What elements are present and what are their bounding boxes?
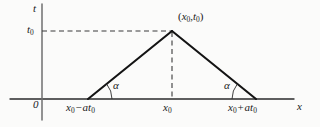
origin-label: 0 <box>33 99 39 110</box>
y-tick-label-t0: t0 <box>27 24 34 37</box>
y-axis-label: t <box>33 3 36 14</box>
triangle-right-leg <box>172 31 256 99</box>
x-tick-label-mid-vertex: x0 <box>163 102 172 115</box>
x-tick-label-left-vertex: x0−at0 <box>66 102 95 115</box>
apex-coordinate-label: (x0,t0) <box>178 11 204 24</box>
angle-arc-right <box>232 84 237 99</box>
angle-label-left-alpha: α <box>113 80 119 91</box>
angle-arc-left <box>107 84 112 99</box>
x-tick-label-right-vertex: x0+at0 <box>228 102 257 115</box>
triangle-left-leg <box>88 31 172 99</box>
x-axis-label: x <box>297 101 302 112</box>
diagram-canvas <box>0 0 320 127</box>
angle-label-right-alpha: α <box>224 80 230 91</box>
characteristic-triangle-diagram: t t0 0 x (x0,t0) x0−at0 x0 x0+at0 α α <box>0 0 320 127</box>
